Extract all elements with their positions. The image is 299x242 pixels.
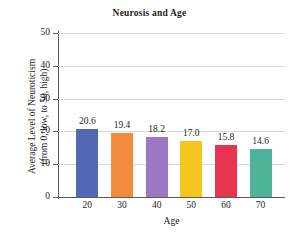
chart-title: Neurosis and Age: [0, 8, 299, 18]
y-tick-label: 50: [30, 27, 50, 37]
gridline: [58, 33, 285, 34]
bar[interactable]: [250, 149, 272, 197]
bar[interactable]: [111, 133, 133, 197]
y-tick-label: 0: [30, 191, 50, 201]
x-axis-line: [56, 197, 285, 198]
y-tick-label: 40: [30, 60, 50, 70]
gridline: [58, 99, 285, 100]
y-axis-title: Average Level of Neuroticism (from 0, lo…: [27, 32, 50, 202]
y-tick-label: 10: [30, 158, 50, 168]
gridline: [58, 66, 285, 67]
bar[interactable]: [76, 129, 98, 197]
bar[interactable]: [180, 141, 202, 197]
plot-area: 20.619.418.217.015.814.6: [58, 33, 285, 197]
y-axis-title-line-2: (from 0, low, to 50, high): [38, 32, 50, 202]
bar-chart-figure: Neurosis and Age Average Level of Neurot…: [0, 0, 299, 242]
y-tick-mark: [53, 197, 58, 198]
y-axis-title-line-1: Average Level of Neuroticism: [27, 32, 39, 202]
bar-value-label: 14.6: [241, 136, 281, 146]
y-tick-label: 30: [30, 93, 50, 103]
bar[interactable]: [215, 145, 237, 197]
bar[interactable]: [146, 137, 168, 197]
y-tick-label: 20: [30, 125, 50, 135]
x-axis-title: Age: [58, 216, 285, 226]
x-tick-label: 70: [241, 200, 281, 210]
